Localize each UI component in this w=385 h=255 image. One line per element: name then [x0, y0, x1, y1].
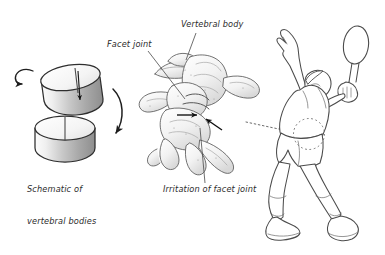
- label-vertebral-body: Vertebral body: [181, 19, 244, 30]
- player-front-leg: [300, 164, 341, 219]
- label-schematic-of-vertebral-bodies: Schematic of vertebral bodies: [27, 163, 96, 247]
- lumbar-vertebra-drawing: [139, 53, 259, 174]
- player-back-shoe: [266, 217, 300, 240]
- lower-vertebral-body-cylinder: [35, 116, 95, 162]
- tennis-player-figure: [266, 25, 371, 241]
- medical-illustration-figure: Facet joint Vertebral body Irritation of…: [0, 0, 385, 255]
- label-irritation-of-facet-joint: Irritation of facet joint: [163, 184, 256, 195]
- player-front-shoe: [327, 216, 358, 241]
- schematic-cylinders-group: [15, 60, 122, 162]
- label-schematic-line-1: Schematic of: [27, 184, 96, 195]
- rotation-arrow-right-icon: [113, 89, 122, 133]
- racquet-shaft: [349, 63, 359, 82]
- upper-vertebral-body-cylinder: [39, 60, 103, 115]
- racquet-head: [341, 25, 370, 66]
- player-shorts: [277, 133, 324, 167]
- label-schematic-line-2: vertebral bodies: [27, 216, 96, 227]
- player-back-leg: [269, 162, 290, 219]
- rotation-arrow-left-icon: [15, 69, 33, 84]
- label-facet-joint: Facet joint: [107, 39, 152, 50]
